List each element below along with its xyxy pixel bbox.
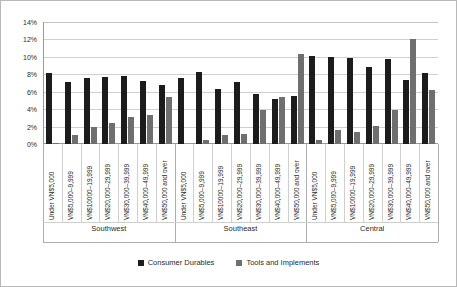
bar-consumer-durables [159,85,165,144]
bar-consumer-durables [215,89,221,144]
bar-tools-and-implements [147,115,153,144]
bar-group [251,22,270,144]
bar-group [326,22,345,144]
bar-consumer-durables [65,82,71,144]
x-axis-category-label: VN$10000–19,999 [349,146,356,220]
category-separator [137,144,138,222]
bar-tools-and-implements [72,135,78,144]
bar-consumer-durables [272,99,278,144]
legend-swatch-icon [138,260,144,266]
bar-tools-and-implements [241,134,247,144]
x-axis-category-label: VN$5,000–9,999 [330,146,337,220]
bar-group [157,22,176,144]
x-axis-category-label: VN$20,000–29,999 [236,146,243,220]
bar-tools-and-implements [373,126,379,144]
legend-item[interactable]: Consumer Durables [138,259,215,267]
bar-consumer-durables [178,78,184,144]
y-axis-tick-label: 6% [0,88,37,95]
category-separator [156,144,157,222]
x-axis-category-label: Under VN$5,000 [311,146,318,220]
y-axis-tick-label: 10% [0,53,37,60]
legend-label: Consumer Durables [148,259,215,267]
x-axis-category-label: VN$5,000–9,999 [67,146,74,220]
x-axis-category-label: VN$10000–19,999 [86,146,93,220]
bar-group [176,22,195,144]
legend-item[interactable]: Tools and Implements [236,259,319,267]
bar-tools-and-implements [53,143,59,144]
category-separator [193,144,194,222]
bar-tools-and-implements [109,123,115,144]
legend-label: Tools and Implements [246,259,319,267]
category-separator [288,144,289,222]
category-separator [212,144,213,222]
bar-tools-and-implements [316,140,322,144]
bar-chart: 0%2%4%6%8%10%12%14% Under VN$5,000VN$5,0… [0,0,457,287]
y-axis-tick-label: 14% [0,19,37,26]
bar-consumer-durables [253,94,259,144]
category-separator [363,144,364,222]
category-separator [99,144,100,222]
legend-swatch-icon [236,260,242,266]
bar-tools-and-implements [260,110,266,144]
bar-consumer-durables [84,78,90,144]
legend: Consumer DurablesTools and Implements [1,259,456,267]
bar-tools-and-implements [279,97,285,144]
bar-tools-and-implements [298,54,304,144]
bar-group [63,22,82,144]
category-separator [325,144,326,222]
x-axis-category-label: VN$30,000–39,999 [123,146,130,220]
bar-group [420,22,439,144]
x-axis-category-label: VN$20,000–29,999 [368,146,375,220]
bar-tools-and-implements [354,132,360,144]
y-axis-tick-label: 12% [0,36,37,43]
group-separator [438,144,439,242]
bar-consumer-durables [347,58,353,144]
bar-group [119,22,138,144]
category-separator [344,144,345,222]
bar-tools-and-implements [429,90,435,144]
bar-group [307,22,326,144]
category-separator [250,144,251,222]
bar-group [138,22,157,144]
category-separator [400,144,401,222]
bar-consumer-durables [196,72,202,144]
x-axis-category-label: VN$30,000–39,999 [255,146,262,220]
category-separator [81,144,82,222]
y-axis-tick-label: 4% [0,106,37,113]
x-axis-category-label: VN$40,000–49,999 [142,146,149,220]
bar-consumer-durables [140,81,146,144]
y-axis-tick-label: 2% [0,123,37,130]
category-separator [269,144,270,222]
category-separator [231,144,232,222]
bar-tools-and-implements [203,140,209,144]
bar-group [82,22,101,144]
x-axis-category-label: VN$10000–19,999 [217,146,224,220]
x-axis-category-label: VN$5,000–9,999 [198,146,205,220]
bar-group [401,22,420,144]
x-axis-group-label: Central [306,225,438,233]
bar-tools-and-implements [166,97,172,144]
category-separator [62,144,63,222]
bar-tools-and-implements [410,39,416,144]
bar-consumer-durables [102,77,108,144]
bar-consumer-durables [46,73,52,144]
x-axis-group-label: Southeast [175,225,307,233]
bar-tools-and-implements [222,135,228,144]
bar-group [232,22,251,144]
x-axis-category-label: VN$40,000–49,999 [274,146,281,220]
y-axis-tick-label: 8% [0,71,37,78]
x-axis-category-label: Under VN$5,000 [180,146,187,220]
x-axis-category-label: VN$30,000–39,999 [387,146,394,220]
bar-tools-and-implements [128,117,134,144]
bar-consumer-durables [121,76,127,144]
bar-consumer-durables [234,82,240,144]
group-axis-baseline [43,242,438,243]
category-separator [419,144,420,222]
bar-consumer-durables [309,56,315,144]
category-separator [118,144,119,222]
bar-consumer-durables [328,57,334,144]
bar-consumer-durables [403,80,409,144]
x-axis-category-label: VN$50,000 and over [161,146,168,220]
x-axis-category-label: VN$20,000–29,999 [104,146,111,220]
bar-group [345,22,364,144]
